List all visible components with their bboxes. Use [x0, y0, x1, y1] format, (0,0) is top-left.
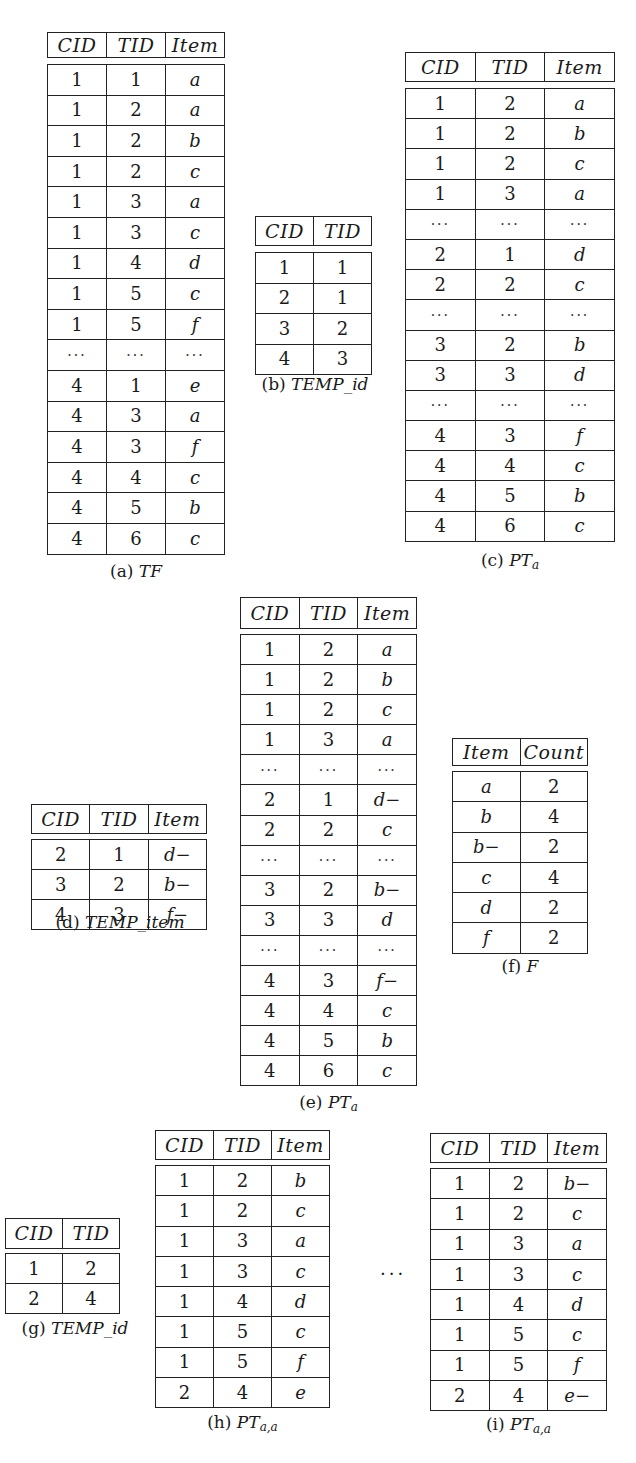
table-cell: 3	[299, 905, 358, 935]
table-row: 12b	[48, 126, 225, 157]
table-cell: 2	[520, 832, 588, 862]
table-cell: ···	[475, 390, 545, 420]
table-cell: c	[358, 695, 417, 725]
table-cell: 4	[48, 432, 107, 463]
table-e-body: 12a12b12c13a·········21d−22c·········32b…	[240, 634, 417, 1086]
table-row: 12b	[156, 1166, 330, 1196]
column-header-item: Item	[148, 805, 206, 834]
caption-label: (h)	[207, 1412, 237, 1432]
caption-name: TF	[139, 561, 162, 581]
caption-name: F	[527, 956, 539, 976]
table-cell: 1	[48, 187, 107, 218]
caption-subscript: a	[532, 558, 539, 572]
table-cell: 2	[299, 695, 358, 725]
table-row: 13a	[241, 725, 417, 755]
table-cell: b	[166, 126, 225, 157]
table-row: 24	[6, 1284, 120, 1314]
table-cell: d	[545, 239, 615, 269]
table-cell: 3	[241, 875, 300, 905]
table-cell: 2	[241, 815, 300, 845]
table-cell: 4	[475, 451, 545, 481]
table-cell: f	[166, 309, 225, 340]
table-row: b4	[453, 802, 588, 832]
table-cell: d−	[148, 840, 206, 870]
table-cell: 1	[48, 65, 107, 96]
caption-a: (a) TF	[47, 561, 225, 581]
table-cell: 4	[520, 862, 588, 892]
footer-text-fragment	[0, 1448, 636, 1463]
table-cell: 4	[256, 344, 314, 375]
table-b-temp-id: CIDTID 11213243	[255, 216, 372, 375]
table-cell: ···	[166, 340, 225, 371]
table-row: 32b	[406, 330, 615, 360]
table-cell: 1	[256, 253, 314, 284]
table-cell: 6	[299, 1056, 358, 1086]
column-header-item: Item	[358, 598, 417, 629]
caption-subscript: a	[351, 1100, 358, 1114]
table-cell: 1	[48, 95, 107, 126]
table-row: 12a	[241, 635, 417, 665]
table-cell: 4	[520, 802, 588, 832]
table-a-tf: CIDTIDItem 11a12a12b12c13a13c14d15c15f··…	[47, 32, 225, 555]
table-row: 14d	[431, 1290, 607, 1320]
table-cell: 4	[299, 996, 358, 1026]
table-cell: 2	[475, 330, 545, 360]
table-row: 12a	[406, 89, 615, 119]
table-row: 15f	[431, 1350, 607, 1380]
column-header-item: Item	[166, 33, 225, 58]
table-row: a2	[453, 772, 588, 802]
table-row: 12c	[241, 695, 417, 725]
table-cell: ···	[545, 300, 615, 330]
table-cell: 5	[214, 1347, 272, 1377]
caption-label: (g)	[22, 1318, 52, 1338]
table-cell: ···	[107, 340, 166, 371]
table-cell: b	[545, 330, 615, 360]
table-cell: ···	[406, 209, 476, 239]
table-cell: c	[166, 156, 225, 187]
column-header-tid: TID	[107, 33, 166, 58]
table-cell: b	[358, 1026, 417, 1056]
table-cell: 2	[256, 283, 314, 314]
table-cell: 3	[107, 217, 166, 248]
table-cell: 1	[431, 1320, 490, 1350]
table-cell: 4	[48, 462, 107, 493]
column-header-item: Item	[545, 53, 615, 82]
table-f-header: ItemCount	[452, 738, 588, 766]
table-row: 43a	[48, 401, 225, 432]
table-cell: 3	[299, 725, 358, 755]
table-cell: 1	[431, 1290, 490, 1320]
table-cell: 1	[48, 248, 107, 279]
table-cell: 5	[475, 481, 545, 511]
table-row: ·········	[48, 340, 225, 371]
table-cell: ···	[545, 390, 615, 420]
table-row: 12c	[406, 149, 615, 179]
table-cell: ···	[299, 845, 358, 875]
table-cell: f−	[358, 966, 417, 996]
column-header-tid: TID	[90, 805, 148, 834]
table-cell: 3	[241, 905, 300, 935]
table-cell: 1	[475, 239, 545, 269]
table-cell: a	[358, 725, 417, 755]
table-i-header: CIDTIDItem	[430, 1133, 607, 1163]
table-cell: a	[453, 772, 521, 802]
table-cell: 1	[156, 1347, 214, 1377]
table-cell: 1	[48, 126, 107, 157]
table-cell: c	[166, 462, 225, 493]
table-row: 45b	[48, 493, 225, 524]
table-row: 13a	[156, 1226, 330, 1256]
table-cell: c	[166, 523, 225, 554]
table-c-body: 12a12b12c13a·········21d22c·········32b3…	[405, 88, 615, 542]
column-header-item: Item	[272, 1131, 330, 1160]
table-cell: d	[548, 1290, 607, 1320]
table-row: ·········	[241, 935, 417, 965]
table-cell: 6	[475, 511, 545, 541]
table-cell: d	[272, 1287, 330, 1317]
table-row: 44c	[406, 451, 615, 481]
table-row: 32	[256, 314, 372, 345]
table-cell: a	[166, 65, 225, 96]
table-cell: ···	[241, 845, 300, 875]
table-row: 15f	[156, 1347, 330, 1377]
table-row: 32b−	[241, 875, 417, 905]
table-cell: a	[548, 1229, 607, 1259]
table-cell: c	[548, 1320, 607, 1350]
